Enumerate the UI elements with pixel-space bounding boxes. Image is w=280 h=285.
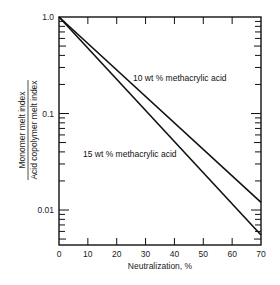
x-tick-label: 10: [83, 249, 93, 259]
x-tick-label: 0: [57, 249, 62, 259]
y-axis-title-denominator: Acid copolymer melt index: [29, 80, 39, 180]
x-axis-title: Neutralization, %: [128, 261, 193, 271]
x-tick-label: 40: [170, 249, 180, 259]
x-tick-label: 50: [199, 249, 209, 259]
x-tick-label: 60: [227, 249, 237, 259]
chart: 0102030405060701.00.10.0110 wt % methacr…: [0, 0, 280, 285]
annotation-10wt: 10 wt % methacrylic acid: [133, 73, 227, 83]
y-axis-title: Monomer melt indexAcid copolymer melt in…: [17, 80, 39, 180]
series-line-15wt: [59, 17, 261, 235]
x-tick-label: 20: [112, 249, 122, 259]
plot-frame: [59, 17, 261, 245]
y-tick-label: 0.01: [37, 205, 54, 215]
annotation-15wt: 15 wt % methacrylic acid: [83, 149, 177, 159]
x-tick-label: 30: [141, 249, 151, 259]
x-tick-label: 70: [256, 249, 266, 259]
y-axis-title-numerator: Monomer melt index: [17, 91, 27, 169]
y-tick-label: 1.0: [42, 12, 54, 22]
y-tick-label: 0.1: [42, 109, 54, 119]
series-line-10wt: [59, 17, 261, 202]
